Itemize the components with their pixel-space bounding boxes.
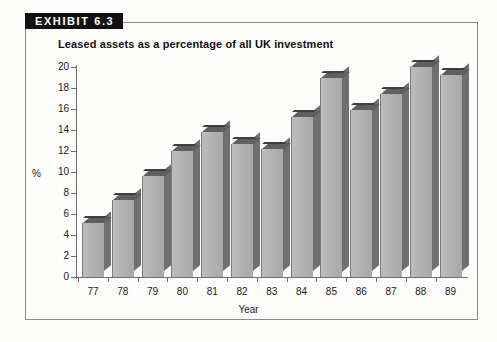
- bar-top-edge: [321, 71, 345, 73]
- bar-side: [253, 132, 260, 271]
- bar: [82, 223, 104, 277]
- x-tick: [138, 277, 139, 282]
- bar-side: [432, 55, 439, 271]
- bar-side: [164, 164, 171, 271]
- x-tick: [406, 277, 407, 282]
- x-tick-label: 79: [138, 286, 168, 297]
- x-tick-label: 78: [108, 286, 138, 297]
- x-tick: [227, 277, 228, 282]
- bar: [261, 149, 283, 277]
- bar: [291, 117, 313, 277]
- x-tick-label: 77: [78, 286, 108, 297]
- bar-side: [462, 64, 469, 271]
- bar-side: [134, 188, 141, 271]
- bar: [171, 151, 193, 277]
- bar-top-edge: [411, 60, 435, 62]
- x-tick: [257, 277, 258, 282]
- x-tick-label: 86: [346, 286, 376, 297]
- x-tick-label: 88: [406, 286, 436, 297]
- bar-top-edge: [351, 103, 375, 105]
- bar: [231, 144, 253, 277]
- x-tick-label: 80: [167, 286, 197, 297]
- bar-top-edge: [202, 125, 226, 127]
- x-tick: [287, 277, 288, 282]
- bar-side: [193, 139, 200, 271]
- bar-side: [372, 98, 379, 271]
- x-tick: [346, 277, 347, 282]
- bar-top-edge: [143, 169, 167, 171]
- x-tick: [316, 277, 317, 282]
- x-tick: [376, 277, 377, 282]
- x-tick-label: 87: [376, 286, 406, 297]
- bar-top-edge: [381, 87, 405, 89]
- x-tick-label: 89: [436, 286, 466, 297]
- bar: [320, 78, 342, 278]
- bar-side: [313, 106, 320, 271]
- x-tick: [108, 277, 109, 282]
- bar-side: [342, 66, 349, 271]
- bar-side: [283, 137, 290, 271]
- x-tick-label: 83: [257, 286, 287, 297]
- bar: [380, 94, 402, 277]
- bar: [112, 200, 134, 277]
- bar-top-edge: [262, 142, 286, 144]
- bar-top-edge: [172, 144, 196, 146]
- bar: [350, 110, 372, 277]
- x-tick: [167, 277, 168, 282]
- bar-side: [223, 120, 230, 271]
- bar: [410, 67, 432, 277]
- x-tick-label: 82: [227, 286, 257, 297]
- exhibit-figure: EXHIBIT 6.3 Leased assets as a percentag…: [0, 0, 497, 342]
- bar: [142, 176, 164, 277]
- x-tick: [436, 277, 437, 282]
- x-tick-label: 85: [316, 286, 346, 297]
- x-tick: [197, 277, 198, 282]
- x-axis-title: Year: [0, 304, 497, 315]
- bar-side: [402, 82, 409, 271]
- x-tick-label: 84: [287, 286, 317, 297]
- bar: [201, 132, 223, 277]
- bar-top-edge: [232, 137, 256, 139]
- x-tick: [78, 277, 79, 282]
- x-tick-label: 81: [197, 286, 227, 297]
- bar: [440, 75, 462, 277]
